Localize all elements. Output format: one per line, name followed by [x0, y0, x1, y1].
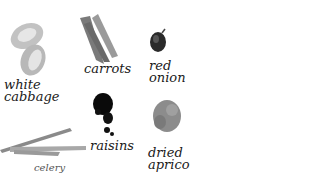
label-line: apricots	[148, 159, 190, 171]
dried-apricots-label: dried apricots	[148, 147, 190, 171]
